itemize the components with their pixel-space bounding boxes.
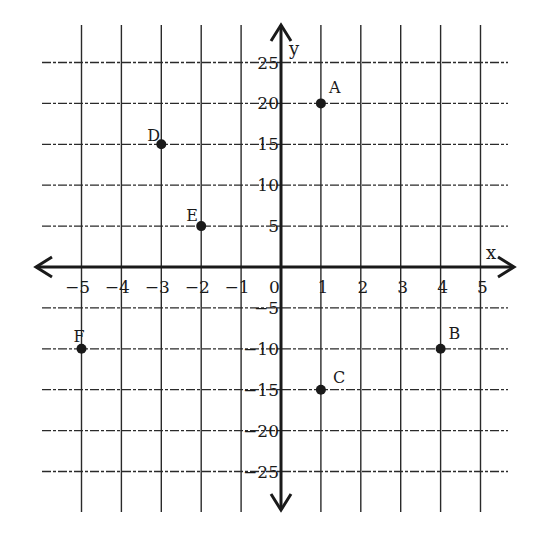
y-tick-label: −20 bbox=[243, 421, 279, 441]
x-tick-label: 1 bbox=[317, 277, 328, 297]
y-tick-label: −5 bbox=[254, 298, 279, 318]
y-tick-label: −25 bbox=[243, 462, 279, 482]
x-tick-label: 0 bbox=[269, 277, 280, 297]
y-tick-label: 25 bbox=[257, 53, 279, 73]
point-label-c: C bbox=[333, 368, 345, 387]
point-label-b: B bbox=[449, 324, 461, 343]
point-b bbox=[436, 344, 446, 354]
x-tick-label: −3 bbox=[145, 277, 170, 297]
y-tick-label: 5 bbox=[268, 216, 279, 236]
y-axis-label: y bbox=[288, 38, 300, 59]
y-tick-label: −15 bbox=[243, 380, 279, 400]
x-tick-label: −1 bbox=[225, 277, 250, 297]
coordinate-plane: xy −5−4−3−2−1012345252015105−5−10−15−20−… bbox=[0, 0, 545, 553]
point-c bbox=[316, 385, 326, 395]
x-tick-label: 3 bbox=[397, 277, 408, 297]
point-label-a: A bbox=[328, 78, 341, 97]
x-tick-label: 4 bbox=[437, 277, 448, 297]
x-tick-label: −4 bbox=[105, 277, 130, 297]
y-tick-label: 15 bbox=[257, 134, 279, 154]
point-label-e: E bbox=[186, 206, 198, 225]
y-tick-label: −10 bbox=[243, 339, 279, 359]
x-axis-label: x bbox=[486, 242, 496, 263]
y-tick-label: 10 bbox=[257, 175, 279, 195]
point-label-f: F bbox=[74, 327, 85, 346]
x-tick-label: −5 bbox=[65, 277, 90, 297]
point-a bbox=[316, 98, 326, 108]
y-tick-label: 20 bbox=[257, 93, 279, 113]
x-tick-label: 2 bbox=[357, 277, 368, 297]
x-tick-label: 5 bbox=[477, 277, 488, 297]
point-label-d: D bbox=[147, 126, 160, 145]
x-tick-label: −2 bbox=[185, 277, 210, 297]
